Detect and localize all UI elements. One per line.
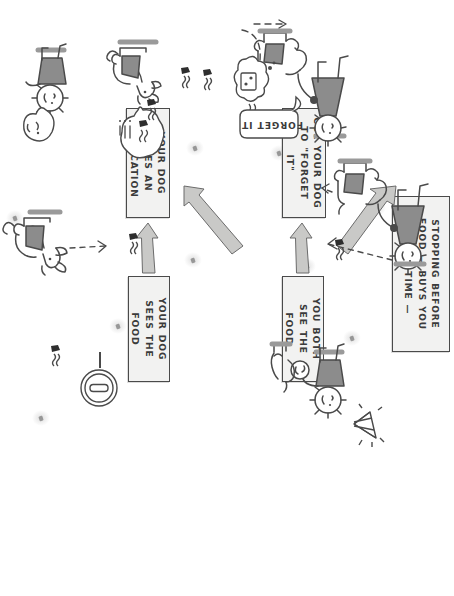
node-label: Your dog sees the food [129, 285, 169, 373]
scent-mark-2 [200, 68, 214, 94]
node-your-dog-sees-the-food[interactable]: Your dog sees the food [128, 276, 170, 382]
scent-mark-4 [126, 232, 140, 258]
scanned-page: Stopping before food — buys you some tim… [0, 0, 454, 596]
illustration-handler-dog-sparkle [272, 326, 382, 446]
scent-mark-1 [332, 238, 346, 264]
speech-bubble-handler-happy [24, 108, 54, 141]
scan-smudge [32, 410, 50, 426]
illustration-dog-indicating [102, 34, 172, 110]
gaze-line-dog-sitting [68, 236, 116, 258]
arrow-stopping-to-dog-sees [182, 184, 246, 256]
speech-bubble-forget-it: FORGET IT [236, 95, 302, 141]
illustration-handler-happy-bottom [6, 38, 66, 156]
scent-mark-5 [48, 344, 62, 370]
scan-smudge [109, 318, 127, 334]
diagram-stage: Stopping before food — buys you some tim… [0, 0, 454, 596]
illustration-dog-sitting-bottom [0, 202, 72, 280]
scent-mark-6 [144, 98, 158, 124]
speech-bubble-text: FORGET IT [241, 120, 303, 130]
scan-smudge [186, 140, 204, 156]
stop-sign-icon [78, 352, 120, 414]
arrow-both-see-to-cue [288, 222, 314, 274]
scent-mark-3 [178, 66, 192, 92]
